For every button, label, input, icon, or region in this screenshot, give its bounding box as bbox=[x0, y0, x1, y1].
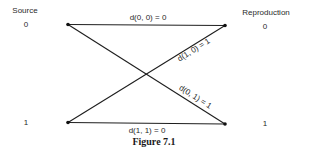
source-symbol-0: 0 bbox=[24, 20, 29, 29]
source-header: Source bbox=[12, 6, 38, 15]
edge-label-d11: d(1, 1) = 0 bbox=[129, 126, 166, 135]
edge-label-d00: d(0, 0) = 0 bbox=[130, 13, 167, 22]
source-node-1 bbox=[66, 121, 70, 125]
reproduction-symbol-0: 0 bbox=[263, 22, 268, 31]
edge-1-to-1 bbox=[68, 123, 225, 125]
reproduction-symbol-1: 1 bbox=[263, 119, 268, 128]
edge-0-to-0 bbox=[68, 25, 225, 26]
reproduction-node-0 bbox=[223, 24, 227, 28]
reproduction-header: Reproduction bbox=[242, 8, 290, 17]
figure-caption: Figure 7.1 bbox=[132, 136, 175, 147]
distortion-diagram: Source Reproduction 0 1 0 1 d(0, 0) = 0 … bbox=[0, 0, 311, 159]
source-symbol-1: 1 bbox=[24, 118, 29, 127]
source-node-0 bbox=[66, 23, 70, 27]
reproduction-node-1 bbox=[223, 122, 227, 126]
edge-label-d10: d(1, 0) = 1 bbox=[176, 36, 212, 63]
